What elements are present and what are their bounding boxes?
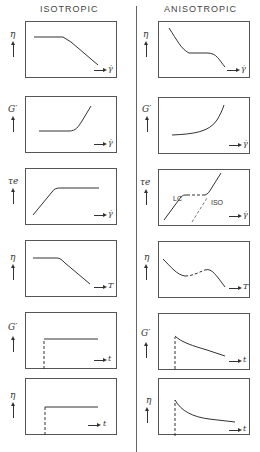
up-arrow-icon <box>147 119 148 132</box>
up-arrow-icon <box>13 267 14 280</box>
up-arrow-icon <box>146 44 147 57</box>
title-isotropic: ISOTROPIC <box>40 4 99 14</box>
x-label: γ̇ <box>108 209 113 218</box>
row-1-left-ylabel: η <box>10 29 15 39</box>
lc-annotation: LC <box>173 195 182 202</box>
panel-aniso-gprime-shear: γ̇ <box>158 97 250 154</box>
up-arrow-icon <box>146 345 147 358</box>
x-label: γ̇ <box>243 210 248 219</box>
up-arrow-icon <box>146 267 147 280</box>
right-arrow-icon <box>229 216 239 217</box>
row-5-left-ylabel: G′ <box>8 322 17 332</box>
panel-iso-eta-temp: T <box>25 240 117 297</box>
right-arrow-icon <box>229 430 239 431</box>
panel-iso-stress-shear: γ̇ <box>25 168 117 225</box>
row-6-right-ylabel: η <box>146 395 151 405</box>
x-label: γ̇ <box>108 138 113 147</box>
up-arrow-icon <box>13 44 14 57</box>
right-arrow-icon <box>94 215 104 216</box>
right-arrow-icon <box>94 360 104 361</box>
panel-aniso-eta-time: t <box>158 378 250 435</box>
row-2-right-ylabel: G′ <box>142 104 151 114</box>
panel-iso-eta-time: t <box>25 378 117 435</box>
x-label: t <box>243 424 246 433</box>
row-6-left-ylabel: η <box>10 390 15 400</box>
x-label: T <box>243 282 248 291</box>
right-arrow-icon <box>229 361 239 362</box>
right-arrow-icon <box>229 288 239 289</box>
panel-iso-gprime-shear: γ̇ <box>25 96 117 153</box>
panel-aniso-eta-shear: γ̇ <box>158 21 250 78</box>
row-3-right-ylabel: τe <box>140 177 150 187</box>
right-arrow-icon <box>94 70 104 71</box>
right-arrow-icon <box>94 287 104 288</box>
up-arrow-icon <box>13 339 14 352</box>
x-label: γ̇ <box>241 64 246 73</box>
up-arrow-icon <box>146 192 147 205</box>
title-anisotropic: ANISOTROPIC <box>164 4 237 14</box>
right-arrow-icon <box>229 145 239 146</box>
row-5-right-ylabel: G′ <box>141 328 150 338</box>
x-label: T <box>108 281 113 290</box>
right-arrow-icon <box>88 425 98 426</box>
x-label: t <box>243 355 246 364</box>
up-arrow-icon <box>13 191 14 204</box>
row-3-left-ylabel: τe <box>8 176 18 186</box>
row-2-left-ylabel: G′ <box>8 104 17 114</box>
panel-iso-eta-shear: γ̇ <box>25 21 117 78</box>
x-label: γ̇ <box>108 64 113 73</box>
right-arrow-icon <box>94 144 104 145</box>
panel-aniso-stress-shear: LC ISO γ̇ <box>158 169 250 226</box>
panel-iso-gprime-time: t <box>25 312 117 369</box>
column-divider <box>136 6 137 452</box>
x-label: t <box>108 354 111 363</box>
up-arrow-icon <box>13 405 14 418</box>
panel-aniso-gprime-time: t <box>158 313 250 370</box>
iso-annotation: ISO <box>211 199 223 206</box>
up-arrow-icon <box>147 410 148 423</box>
row-4-right-ylabel: η <box>144 252 149 262</box>
row-4-left-ylabel: η <box>10 252 15 262</box>
up-arrow-icon <box>13 119 14 132</box>
row-1-right-ylabel: η <box>143 29 148 39</box>
panel-aniso-eta-temp: T <box>158 241 250 298</box>
right-arrow-icon <box>227 70 237 71</box>
x-label: γ̇ <box>243 139 248 148</box>
x-label: t <box>103 419 106 428</box>
